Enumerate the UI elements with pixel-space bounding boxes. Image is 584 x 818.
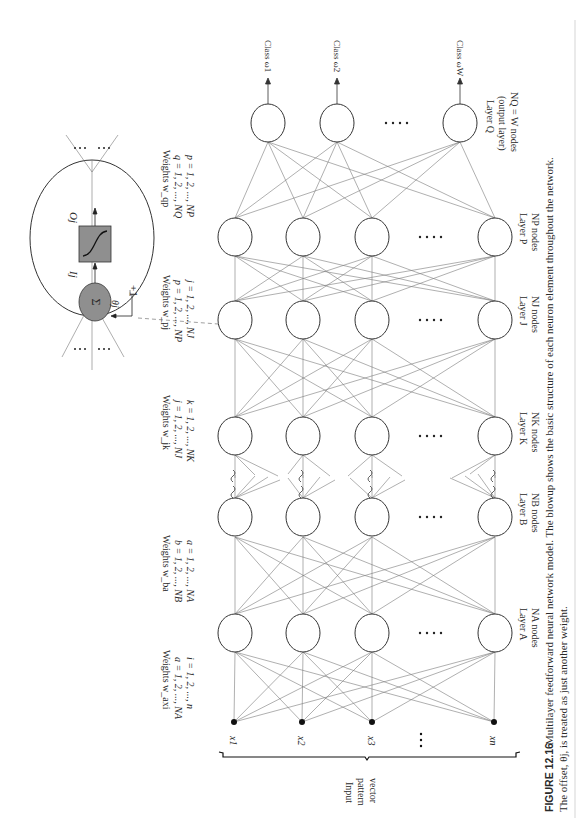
layer-j-nodes <box>218 301 512 339</box>
svg-text:Layer A: Layer A <box>518 608 529 641</box>
network-diagram: Σ Ij Oj θj +1 Weights w_axi a = 1, 2, ..… <box>0 0 584 818</box>
svg-text:(output layer): (output layer) <box>496 96 508 151</box>
class-2-label: Class ω2 <box>332 40 342 72</box>
edges-p-q <box>235 142 495 218</box>
weights-input-a: Weights w_axi a = 1, 2, ..., NA i = 1, 2… <box>161 650 196 720</box>
edges-a-b <box>235 537 495 614</box>
caption-line1: Multilayer feedforward neural network mo… <box>543 157 555 745</box>
svg-text:Input: Input <box>344 782 355 803</box>
output-class-labels: Class ω1 Class ω2 Class ωW <box>263 40 465 77</box>
input-label: Ij <box>68 270 80 278</box>
svg-text:p = 1, 2, ..., NP: p = 1, 2, ..., NP <box>173 279 184 342</box>
weight-labels: Weights w_axi a = 1, 2, ..., NA i = 1, 2… <box>161 150 196 720</box>
input-nodes <box>231 719 497 747</box>
edges-k-j <box>235 339 495 417</box>
class-w-label: Class ωW <box>455 40 465 77</box>
svg-text:NP nodes: NP nodes <box>530 213 541 251</box>
svg-text:j = 1, 2, ..., NJ: j = 1, 2, ..., NJ <box>173 398 184 459</box>
output-label: Oj <box>68 212 80 223</box>
weights-a-b: Weights w_ba b = 1, 2, ..., NB a = 1, 2,… <box>161 535 196 603</box>
svg-text:Weights w_pj: Weights w_pj <box>161 275 172 330</box>
layer-q-label: Layer Q (output layer) NQ = W nodes <box>485 92 520 152</box>
edges-k-stubs <box>235 455 495 478</box>
svg-text:a = 1, 2, ..., NA: a = 1, 2, ..., NA <box>185 540 196 603</box>
output-arrows <box>266 78 463 104</box>
svg-text:NK nodes: NK nodes <box>530 412 541 452</box>
svg-text:Layer P: Layer P <box>518 213 529 245</box>
svg-text:Layer B: Layer B <box>518 493 529 526</box>
layer-p-nodes <box>218 218 512 256</box>
layer-j-label: Layer JNJ nodes <box>518 296 541 333</box>
layer-labels: Layer ANA nodes Layer BNB nodes Layer KN… <box>485 92 541 648</box>
svg-text:Layer J: Layer J <box>518 296 529 326</box>
svg-text:k = 1, 2, ..., NK: k = 1, 2, ..., NK <box>185 400 196 463</box>
svg-text:j = 1, 2, ..., NJ: j = 1, 2, ..., NJ <box>185 278 196 339</box>
svg-text:x2: x2 <box>296 735 307 745</box>
svg-text:xn: xn <box>488 735 499 745</box>
svg-text:Weights w_ba: Weights w_ba <box>161 535 172 592</box>
layer-a-label: Layer ANA nodes <box>518 608 541 648</box>
figure-label: FIGURE 12.16 <box>543 743 555 812</box>
weights-k-j: Weights w_jk j = 1, 2, ..., NJ k = 1, 2,… <box>161 395 196 463</box>
layer-k-label: Layer KNK nodes <box>518 412 541 452</box>
figure-page: Σ Ij Oj θj +1 Weights w_axi a = 1, 2, ..… <box>0 0 584 818</box>
svg-text:x3: x3 <box>366 735 377 745</box>
layer-q-nodes <box>251 104 477 142</box>
svg-text:Layer Q: Layer Q <box>485 100 496 134</box>
layer-a-nodes <box>218 614 512 652</box>
layer-p-label: Layer PNP nodes <box>518 213 541 251</box>
input-labels: x1 x2 x3 xn <box>228 735 499 745</box>
input-vector-label: Input pattern vector <box>344 778 379 806</box>
sum-symbol: Σ <box>89 299 103 306</box>
figure-caption: FIGURE 12.16 Multilayer feedforward neur… <box>543 20 575 818</box>
svg-text:NQ = W nodes: NQ = W nodes <box>509 92 520 152</box>
caption-line2: The offset, θj, is treated as just anoth… <box>557 606 569 812</box>
input-brace <box>219 752 520 760</box>
weights-p-q: Weights w_qp q = 1, 2, ..., NQ p = 1, 2,… <box>161 150 196 219</box>
edges-input-a <box>234 652 495 722</box>
layer-b-nodes <box>218 498 512 536</box>
svg-text:NJ nodes: NJ nodes <box>530 296 541 333</box>
svg-text:q = 1, 2, ..., NQ: q = 1, 2, ..., NQ <box>173 155 184 219</box>
svg-text:pattern: pattern <box>356 778 367 806</box>
svg-text:Weights w_jk: Weights w_jk <box>161 395 172 450</box>
edges-j-p <box>235 256 495 301</box>
svg-text:x1: x1 <box>228 735 239 745</box>
svg-text:i = 1, 2, ..., n: i = 1, 2, ..., n <box>185 657 196 709</box>
svg-text:Layer K: Layer K <box>518 412 529 446</box>
svg-text:p = 1, 2, ..., NP: p = 1, 2, ..., NP <box>185 154 196 217</box>
svg-text:b = 1, 2, ..., NB: b = 1, 2, ..., NB <box>173 540 184 602</box>
svg-text:NA nodes: NA nodes <box>530 608 541 648</box>
svg-text:vector: vector <box>368 778 379 804</box>
svg-text:Weights w_qp: Weights w_qp <box>161 150 172 207</box>
edges-b-stubs <box>235 474 495 498</box>
svg-text:NB nodes: NB nodes <box>530 493 541 533</box>
weights-j-p: Weights w_pj p = 1, 2, ..., NP j = 1, 2,… <box>161 275 196 342</box>
svg-text:Weights w_axi: Weights w_axi <box>161 650 172 710</box>
svg-text:a = 1, 2, ..., NA: a = 1, 2, ..., NA <box>173 657 184 720</box>
class-1-label: Class ω1 <box>263 40 273 72</box>
layer-k-nodes <box>218 417 512 455</box>
theta-label: θj <box>110 300 121 308</box>
layer-b-label: Layer BNB nodes <box>518 493 541 533</box>
